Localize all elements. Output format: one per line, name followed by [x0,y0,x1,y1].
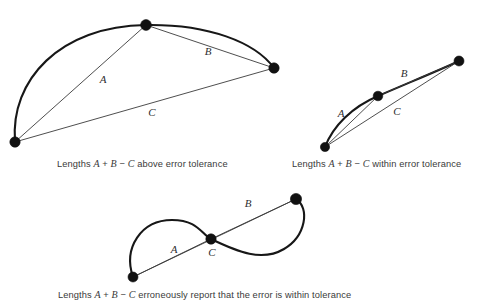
vertex-end-panel2 [454,56,464,66]
vertex-mid-panel1 [141,20,152,31]
panel-erroneous-tolerance: A B C [128,193,304,282]
caption-plus-3: + [101,290,112,300]
caption-var-c-2: C [363,158,370,169]
vertex-end-panel1 [269,63,279,73]
caption-minus-3: − [118,290,129,300]
diagram-canvas: A B C A B C A B C [0,0,499,308]
vertex-mid-panel3 [206,234,216,244]
chord-segment-b-panel2 [378,61,459,96]
chord-segment-a-panel1 [15,25,146,142]
caption-panel-erroneous-tolerance: Lengths A + B − C erroneously report tha… [58,289,351,300]
caption-minus-1: − [117,159,128,169]
figure-container: A B C A B C A B C [0,0,499,308]
panel-within-tolerance: A B C [320,56,464,152]
vertex-start-panel2 [320,142,329,151]
caption-plus-2: + [335,159,346,169]
caption-text-prefix-2: Lengths [292,159,328,169]
vertex-start-panel3 [128,272,138,282]
label-b-panel2: B [401,67,408,79]
vertex-start-panel1 [10,137,20,147]
curve-arc-panel1 [15,25,274,142]
vertex-end-panel3 [290,193,301,204]
caption-minus-2: − [352,159,363,169]
caption-text-prefix-1: Lengths [57,159,93,169]
vertex-mid-panel2 [373,91,383,101]
label-c-panel2: C [393,105,401,117]
caption-var-c-1: C [128,158,135,169]
label-a-panel2: A [337,107,345,119]
caption-panel-within-tolerance: Lengths A + B − C within error tolerance [292,158,461,169]
label-c-panel3: C [208,246,216,258]
panel-above-tolerance: A B C [10,20,279,148]
label-c-panel1: C [148,106,156,118]
caption-text-prefix-3: Lengths [58,290,94,300]
caption-text-suffix-3: erroneously report that the error is wit… [136,290,352,300]
label-a-panel3: A [170,243,178,255]
label-a-panel1: A [99,73,107,85]
chord-segment-a-panel2 [325,96,378,147]
caption-plus-1: + [100,159,111,169]
caption-text-suffix-2: within error tolerance [370,159,462,169]
caption-text-suffix-1: above error tolerance [135,159,228,169]
chord-segment-c-panel1 [15,68,274,142]
label-b-panel1: B [205,45,212,57]
label-b-panel3: B [245,197,252,209]
caption-panel-above-tolerance: Lengths A + B − C above error tolerance [57,158,228,169]
caption-var-c-3: C [129,289,136,300]
chord-segment-c-panel2 [325,61,459,147]
